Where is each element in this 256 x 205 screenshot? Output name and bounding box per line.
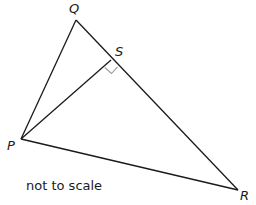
segment-pq — [21, 20, 76, 139]
label-r: R — [240, 188, 249, 203]
label-s: S — [115, 44, 123, 59]
segment-qr — [76, 20, 238, 190]
label-p: P — [7, 138, 15, 153]
right-angle-marker — [105, 67, 118, 74]
not-to-scale-note: not to scale — [26, 178, 102, 193]
label-q: Q — [69, 1, 79, 16]
triangle-diagram: Q S P R not to scale — [0, 0, 256, 205]
segment-ps — [21, 60, 111, 139]
